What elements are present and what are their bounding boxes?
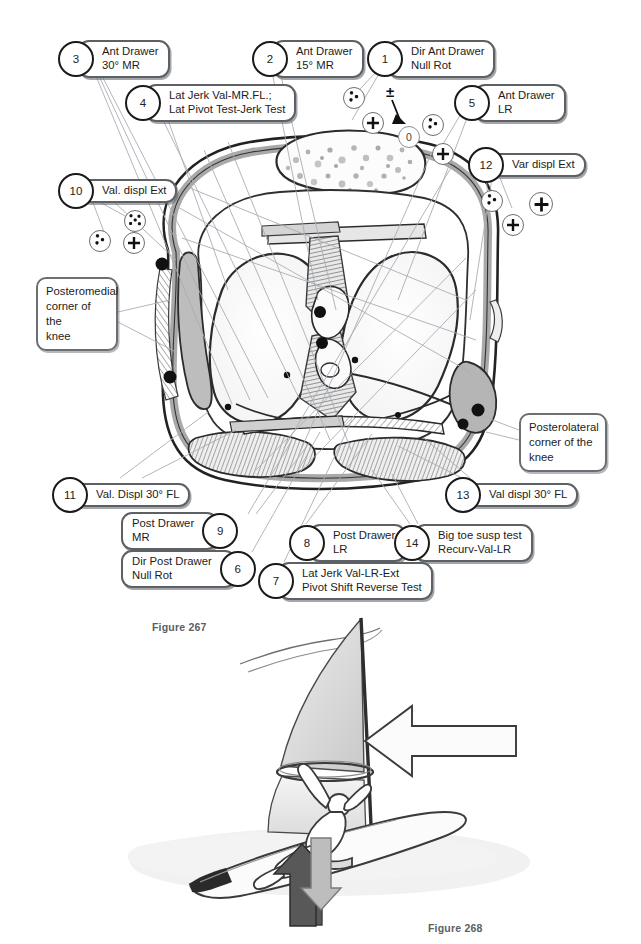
callout-8-number: 8	[289, 525, 325, 561]
callout-8[interactable]: 8 Post Drawer LR	[289, 524, 406, 562]
double-plus-icon	[425, 117, 441, 133]
callout-6[interactable]: 6 Dir Post Drawer Null Rot	[121, 550, 256, 588]
page-root: 3 Ant Drawer 30° MR 2 Ant Drawer 15° MR …	[0, 0, 641, 944]
grade-symbol-single-plus-5	[502, 214, 524, 236]
callout-4-number: 4	[125, 85, 161, 121]
callout-12-number: 12	[468, 147, 504, 183]
plus-icon	[126, 235, 142, 251]
callout-1-number: 1	[367, 41, 403, 77]
grade-symbol-double-plus-2	[422, 114, 444, 136]
callout-13[interactable]: 13 Val displ 30° FL	[445, 477, 578, 513]
grade-symbol-plusminus: ±	[379, 80, 401, 102]
callout-4-text: Lat Jerk Val-MR.FL.; Lat Pivot Test-Jerk…	[145, 84, 296, 122]
callout-10-number: 10	[58, 173, 94, 209]
double-plus-icon	[484, 193, 500, 209]
callout-6-number: 6	[220, 551, 256, 587]
zero-glyph: 0	[406, 132, 412, 143]
callout-2[interactable]: 2 Ant Drawer 15° MR	[252, 40, 364, 78]
callout-14[interactable]: 14 Big toe susp test Recurv-Val-LR	[394, 524, 533, 562]
callout-14-number: 14	[394, 525, 430, 561]
callout-5[interactable]: 5 Ant Drawer LR	[454, 84, 566, 122]
grade-symbol-zero: 0	[398, 126, 420, 148]
callout-10[interactable]: 10 Val. displ Ext	[58, 173, 177, 209]
callout-2-number: 2	[252, 41, 288, 77]
callout-12[interactable]: 12 Var displ Ext	[468, 147, 586, 183]
plus-icon	[365, 115, 381, 131]
triple-plus-icon	[127, 213, 144, 230]
grade-symbol-single-plus-3	[123, 232, 145, 254]
callout-leader-lines	[0, 0, 641, 944]
callout-11-text: Val. Displ 30° FL	[72, 483, 190, 508]
callout-9-number: 9	[202, 513, 238, 549]
plus-icon	[505, 217, 521, 233]
figure-267-caption: Figure 267	[152, 621, 207, 633]
grade-symbol-double-plus-3	[89, 230, 111, 252]
grade-symbol-single-plus-1	[362, 112, 384, 134]
callout-5-number: 5	[454, 85, 490, 121]
plus-icon	[533, 196, 550, 213]
grade-symbol-single-plus-4	[529, 192, 553, 216]
grade-symbol-double-plus-1	[343, 87, 365, 109]
callout-7-number: 7	[258, 563, 294, 599]
callout-14-text: Big toe susp test Recurv-Val-LR	[414, 524, 533, 562]
callout-1-text: Dir Ant Drawer Null Rot	[387, 40, 495, 78]
callout-1[interactable]: 1 Dir Ant Drawer Null Rot	[367, 40, 495, 78]
figure-268-caption: Figure 268	[428, 922, 483, 934]
callout-6-text: Dir Post Drawer Null Rot	[121, 550, 236, 588]
callout-4[interactable]: 4 Lat Jerk Val-MR.FL.; Lat Pivot Test-Je…	[125, 84, 296, 122]
label-posteromedial-corner: Posteromedial corner of the knee	[36, 277, 118, 351]
double-plus-icon	[92, 233, 108, 249]
label-posterolateral-corner: Posterolateral corner of the knee	[519, 413, 607, 472]
callout-11[interactable]: 11 Val. Displ 30° FL	[52, 477, 190, 513]
callout-11-number: 11	[52, 477, 88, 513]
plusminus-glyph: ±	[386, 84, 394, 99]
callout-7[interactable]: 7 Lat Jerk Val-LR-Ext Pivot Shift Revers…	[258, 562, 433, 600]
grade-symbol-single-plus-2	[432, 143, 454, 165]
plus-icon	[435, 146, 451, 162]
callout-13-text: Val displ 30° FL	[465, 483, 578, 508]
callout-13-number: 13	[445, 477, 481, 513]
callout-9[interactable]: 9 Post Drawer MR	[121, 512, 238, 550]
callout-7-text: Lat Jerk Val-LR-Ext Pivot Shift Reverse …	[278, 562, 433, 600]
grade-symbol-triple-plus	[124, 210, 146, 232]
callout-3[interactable]: 3 Ant Drawer 30° MR	[58, 40, 170, 78]
callout-3-number: 3	[58, 41, 94, 77]
grade-symbol-double-plus-4	[481, 190, 503, 212]
double-plus-icon	[346, 90, 362, 106]
plusminus-to-zero-arrow	[392, 100, 406, 124]
